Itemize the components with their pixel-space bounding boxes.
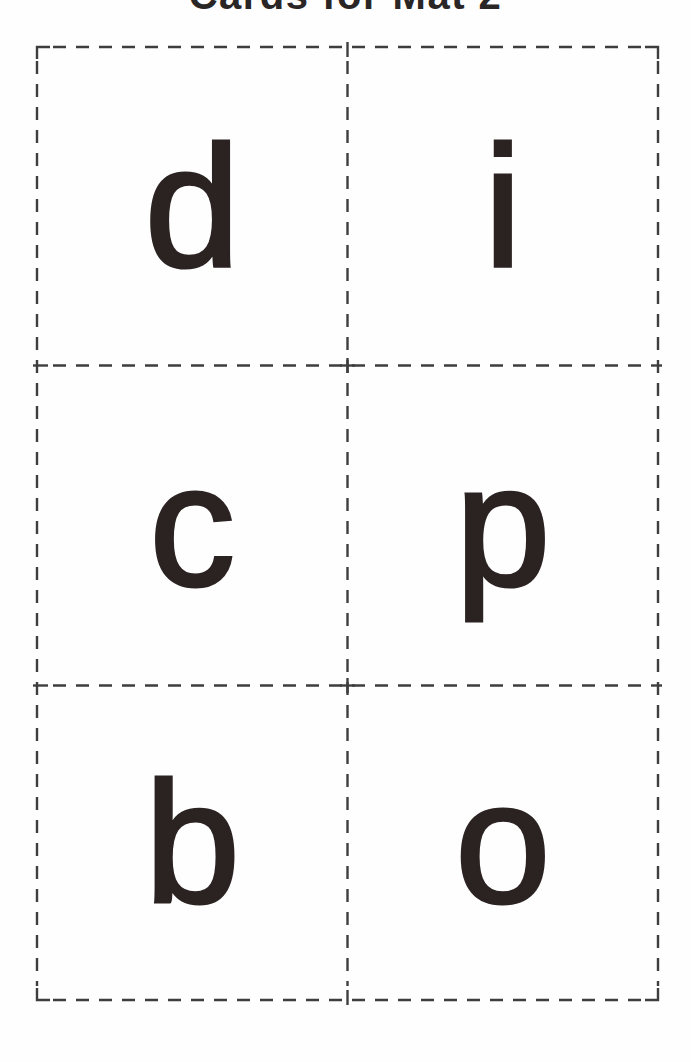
card-letter: i [484, 110, 522, 303]
letter-card-p: p [348, 366, 659, 686]
letter-card-d: d [37, 47, 348, 366]
letter-card-c: c [37, 366, 348, 686]
sheet-title: Cards for Mat 2 [0, 0, 691, 15]
card-letter: b [144, 746, 240, 939]
flashcard-sheet: Cards for Mat 2 [0, 0, 691, 1062]
card-letter: p [455, 429, 551, 622]
letter-card-i: i [348, 47, 659, 366]
card-letter: c [149, 429, 235, 622]
card-grid: d i c p b o [37, 47, 658, 1000]
card-letter: o [455, 746, 551, 939]
letter-card-b: b [37, 686, 348, 1001]
letter-card-o: o [348, 686, 659, 1001]
card-letter: d [144, 110, 240, 303]
